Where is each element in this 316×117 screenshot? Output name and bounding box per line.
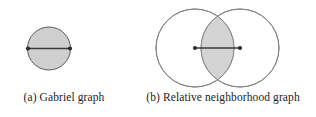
rng-node-right xyxy=(238,46,242,50)
figure-root: (a) Gabriel graph xyxy=(0,0,316,117)
gabriel-graph-svg xyxy=(0,0,130,92)
rng-svg xyxy=(130,0,316,92)
gabriel-node-left xyxy=(26,46,30,50)
figure-panel-gabriel: (a) Gabriel graph xyxy=(0,0,130,117)
gabriel-graph-diagram xyxy=(0,0,130,92)
rng-diagram xyxy=(130,0,316,92)
figure-panel-rng: (b) Relative neighborhood graph xyxy=(130,0,316,117)
rng-node-left xyxy=(193,46,197,50)
caption-gabriel-graph: (a) Gabriel graph xyxy=(0,89,130,105)
gabriel-node-right xyxy=(68,46,72,50)
caption-relative-neighborhood-graph: (b) Relative neighborhood graph xyxy=(130,89,316,105)
